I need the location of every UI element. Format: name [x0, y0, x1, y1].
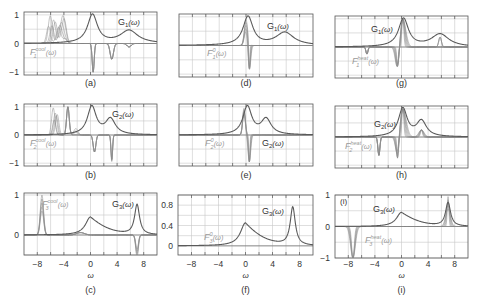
y-tick-label: 0 [14, 39, 19, 49]
panel-caption: (g) [396, 78, 407, 88]
f-label: Fheat1(ω) [352, 55, 380, 68]
g-label: G1(ω) [267, 21, 289, 32]
y-tick-label: 0.4 [161, 221, 173, 231]
x-tick-label: 8 [297, 259, 302, 269]
g-label: G1(ω) [371, 24, 393, 35]
x-tick-label: 4 [115, 259, 120, 269]
y-tick-label: −1 [9, 67, 19, 77]
panel-caption: (h) [396, 170, 407, 180]
panel-f: 0.80.40−8−4048ωG3(ω)F03(ω)(f) [161, 195, 313, 295]
g-label: G1(ω) [118, 17, 140, 28]
panel-caption: (i) [398, 285, 406, 295]
x-tick-label: −4 [59, 259, 69, 269]
y-tick-label: 1 [325, 190, 330, 200]
panel-caption: (c) [85, 285, 96, 295]
x-tick-label: −8 [32, 259, 42, 269]
y-tick-label: −1 [320, 253, 330, 263]
x-tick-label: 0 [88, 259, 93, 269]
g-label: G3(ω) [112, 199, 134, 210]
x-tick-label: 0 [243, 259, 248, 269]
panel-caption: (f) [241, 285, 250, 295]
x-tick-label: −8 [187, 259, 197, 269]
g-label: G3(ω) [373, 204, 395, 215]
f-label: Fcool1(ω) [30, 46, 57, 59]
x-tick-label: 8 [452, 259, 457, 269]
panel-b: 10−1G2(ω)Fcool2(ω)(b) [9, 102, 157, 180]
x-axis-label: ω [242, 271, 248, 280]
panel-caption: (a) [85, 78, 96, 88]
figure-grid: 10−1G1(ω)Fcool1(ω)(a)10−1G2(ω)Fcool2(ω)(… [0, 0, 480, 308]
inner-panel-label: (i) [340, 197, 347, 206]
g-label: G2(ω) [262, 138, 284, 149]
x-tick-label: 8 [141, 259, 146, 269]
panel-c: 10−8−4048ωG3(ω)Fcool3(ω)(c) [14, 190, 157, 295]
f-label: Fcool2(ω) [30, 137, 57, 150]
y-tick-label: 0.8 [161, 200, 173, 210]
x-tick-label: 0 [399, 259, 404, 269]
y-tick-label: 1 [14, 102, 19, 112]
y-tick-label: 1 [14, 10, 19, 20]
x-tick-label: −4 [214, 259, 224, 269]
g-label: G2(ω) [374, 119, 396, 130]
panel-caption: (b) [85, 170, 96, 180]
f-label: F03(ω) [204, 231, 224, 244]
y-tick-label: 0 [14, 230, 19, 240]
panel-h: G2(ω)Fheat2(ω)(h) [335, 106, 468, 180]
y-tick-label: −1 [9, 158, 19, 168]
x-axis-label: ω [87, 271, 93, 280]
y-tick-label: 0 [325, 222, 330, 232]
g-label: G3(ω) [262, 206, 284, 217]
x-axis-label: ω [398, 271, 404, 280]
panel-d: G1(ω)F01(ω)(d) [179, 14, 313, 88]
f-label: F01(ω) [207, 47, 227, 60]
f-label: F02(ω) [205, 137, 225, 150]
y-tick-label: 0 [14, 130, 19, 140]
x-tick-label: 4 [426, 259, 431, 269]
g-label: G2(ω) [112, 109, 134, 120]
panel-g: G1(ω)Fheat1(ω)(g) [335, 16, 468, 88]
panel-i: 10−1−8−4048ωG3(ω)Fheat3(ω)(i)(i) [320, 190, 468, 295]
panel-e: G2(ω)F02(ω)(e) [179, 104, 313, 180]
panel-a: 10−1G1(ω)Fcool1(ω)(a) [9, 10, 157, 88]
y-tick-label: 0 [168, 241, 173, 251]
y-tick-label: 1 [14, 190, 19, 200]
x-tick-label: −4 [370, 259, 380, 269]
panel-caption: (d) [241, 78, 252, 88]
x-tick-label: −8 [343, 259, 353, 269]
x-tick-label: 4 [270, 259, 275, 269]
panel-caption: (e) [241, 170, 252, 180]
f-label: Fcool3(ω) [42, 198, 69, 211]
